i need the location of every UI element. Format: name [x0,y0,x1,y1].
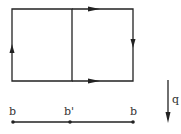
point-b-left [11,120,15,124]
label-b-right: b [130,105,137,118]
down-arrow-icon [131,39,136,48]
point-b-right [131,120,135,124]
left-square [12,9,72,81]
loop-diagram [12,9,133,81]
label-b-prime: b' [64,105,74,118]
diagram-canvas: b b' b q [0,0,181,134]
right-arrow-icon-bottom [88,79,100,84]
right-square [72,9,133,81]
label-q: q [172,93,179,106]
down-arrow-icon-q [166,112,171,123]
up-arrow-icon [10,44,15,53]
point-line [11,120,135,124]
label-b-left: b [9,105,16,118]
point-b-prime [68,120,72,124]
q-vector [166,80,171,123]
right-arrow-icon-top [88,7,100,12]
